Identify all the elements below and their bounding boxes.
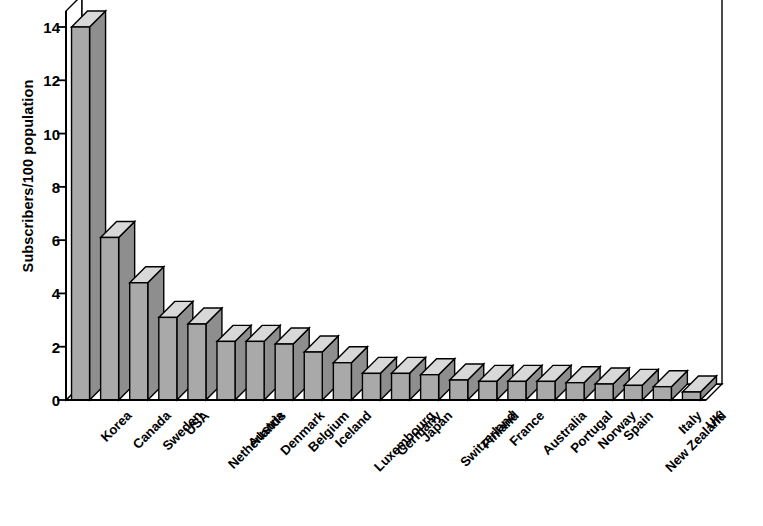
x-axis-tick-labels: KoreaCanadaSwedenUSANetherlandsAustriaDe…: [0, 0, 763, 526]
x-tick-label: Korea: [97, 408, 134, 445]
bar-chart-figure: Subscribers/100 population 02468101214 K…: [0, 0, 763, 526]
